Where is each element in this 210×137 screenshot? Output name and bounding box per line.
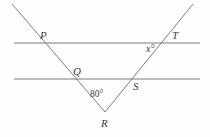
angle-label-80-degrees: 80° bbox=[90, 90, 103, 100]
point-label-s: S bbox=[133, 81, 139, 92]
point-label-r: R bbox=[101, 118, 108, 129]
transversal-right-rst bbox=[105, 4, 193, 112]
geometry-figure: P T Q S R x° 80° bbox=[0, 0, 210, 137]
point-label-p: P bbox=[40, 30, 47, 41]
angle-label-x: x° bbox=[146, 44, 154, 54]
point-label-q: Q bbox=[73, 66, 81, 77]
point-label-t: T bbox=[172, 30, 178, 41]
